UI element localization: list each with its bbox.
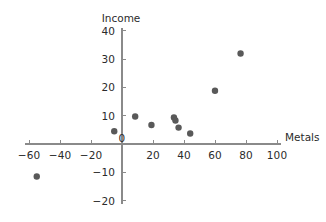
data-point	[237, 50, 243, 56]
x-tick-label: 0	[119, 132, 126, 144]
x-tick-label: −60	[18, 149, 40, 161]
y-tick-label: 20	[101, 81, 115, 93]
x-tick-label: 20	[146, 149, 160, 161]
scatter-chart: −60−40−20020406080100 −20−1010203040 Inc…	[0, 0, 326, 222]
data-point	[172, 117, 178, 123]
data-point	[212, 88, 218, 94]
x-axis-title: Metals	[285, 131, 319, 143]
plot-area	[0, 0, 326, 222]
x-tick-label: 60	[208, 149, 222, 161]
data-point	[132, 113, 138, 119]
x-tick-label: 80	[239, 149, 253, 161]
x-tick-label: 40	[177, 149, 191, 161]
data-point	[187, 130, 193, 136]
y-tick-label: 40	[101, 25, 115, 37]
y-axis-title: Income	[102, 12, 141, 24]
data-point	[111, 128, 117, 134]
y-tick-label: −20	[93, 195, 115, 207]
y-tick-label: 30	[101, 53, 115, 65]
x-tick-label: −20	[80, 149, 102, 161]
data-point	[34, 173, 40, 179]
x-tick-label: 100	[267, 149, 287, 161]
data-point	[148, 122, 154, 128]
x-tick-label: −40	[49, 149, 71, 161]
y-tick-label: 10	[101, 110, 115, 122]
data-point	[175, 124, 181, 130]
y-tick-label: −10	[93, 166, 115, 178]
